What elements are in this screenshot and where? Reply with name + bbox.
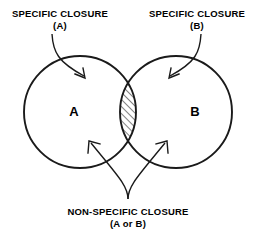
- label-specific-closure-b-line1: SPECIFIC CLOSURE: [149, 8, 245, 19]
- label-specific-closure-b: SPECIFIC CLOSURE (B): [137, 8, 257, 32]
- label-specific-closure-b-line2: (B): [190, 20, 204, 31]
- label-specific-closure-a-line2: (A): [53, 20, 67, 31]
- set-label-b: B: [185, 104, 205, 119]
- venn-diagram: SPECIFIC CLOSURE (A) SPECIFIC CLOSURE (B…: [0, 0, 257, 237]
- set-label-a: A: [64, 104, 84, 119]
- venn-canvas: [0, 0, 257, 237]
- label-specific-closure-a-line1: SPECIFIC CLOSURE: [12, 8, 108, 19]
- label-nonspecific-closure-line2: (A or B): [110, 218, 146, 229]
- label-specific-closure-a: SPECIFIC CLOSURE (A): [0, 8, 120, 32]
- label-nonspecific-closure-line1: NON-SPECIFIC CLOSURE: [67, 206, 188, 217]
- label-nonspecific-closure: NON-SPECIFIC CLOSURE (A or B): [38, 206, 218, 230]
